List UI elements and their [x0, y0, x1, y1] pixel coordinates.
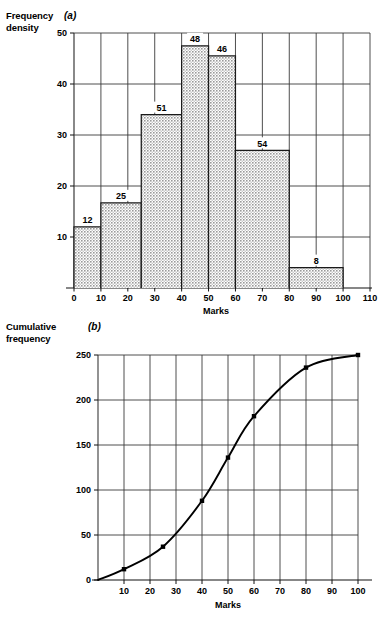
y-tick-label: 50 [57, 28, 67, 38]
x-tick-label: 30 [150, 293, 160, 303]
x-tick-label: 50 [223, 586, 233, 596]
y-tick-label: 150 [76, 440, 91, 450]
x-tick-label: 20 [123, 293, 133, 303]
data-point-marker [252, 414, 256, 418]
panel-a-x-tick-labels: 0102030405060708090100110 [71, 288, 377, 303]
histogram-bar [182, 46, 209, 288]
histogram-bar [289, 268, 343, 288]
x-tick-label: 20 [145, 586, 155, 596]
data-point-marker [200, 499, 204, 503]
x-tick-label: 60 [249, 586, 259, 596]
data-point-marker [304, 365, 308, 369]
histogram-bar-label: 46 [217, 44, 227, 54]
data-point-marker [161, 545, 165, 549]
x-tick-label: 90 [327, 586, 337, 596]
histogram-bar [235, 150, 289, 288]
x-tick-label: 80 [301, 586, 311, 596]
panel-a-histogram-svg: 1225514846548010203040506070809010011010… [0, 0, 385, 320]
data-point-marker [226, 455, 230, 459]
x-tick-label: 50 [204, 293, 214, 303]
panel-a-x-axis-label: Marks [203, 306, 229, 316]
panel-a-bars [74, 46, 343, 288]
histogram-bar [101, 203, 141, 288]
data-point-marker [122, 567, 126, 571]
y-tick-label: 250 [76, 350, 91, 360]
panel-b-x-tick-labels: 102030405060708090100 [119, 580, 366, 596]
y-tick-label: 200 [76, 395, 91, 405]
x-tick-label: 60 [230, 293, 240, 303]
y-tick-label: 20 [57, 181, 67, 191]
panel-a-container: Frequency density (a) 122551484654801020… [0, 0, 385, 320]
histogram-bar [74, 227, 101, 288]
histogram-bar-label: 12 [82, 215, 92, 225]
panel-b-container: Cumulative frequency (b) 102030405060708… [0, 318, 385, 639]
histogram-bar-label: 25 [116, 191, 126, 201]
x-tick-label: 30 [171, 586, 181, 596]
x-tick-label: 40 [197, 586, 207, 596]
histogram-bar [209, 56, 236, 288]
x-tick-label: 100 [350, 586, 365, 596]
x-tick-label: 70 [257, 293, 267, 303]
x-tick-label: 80 [284, 293, 294, 303]
panel-b-cumulative-frequency-svg: 102030405060708090100050100150200250Mark… [0, 318, 385, 639]
y-tick-label: 10 [57, 232, 67, 242]
panel-b-gridlines [92, 355, 372, 580]
histogram-bar-label: 51 [156, 103, 166, 113]
x-tick-label: 110 [363, 293, 378, 303]
x-tick-label: 0 [71, 293, 76, 303]
histogram-bar-label: 8 [314, 256, 319, 266]
y-tick-label: 50 [81, 530, 91, 540]
y-tick-label: 40 [57, 79, 67, 89]
panel-b-data-points [122, 353, 360, 572]
histogram-bar-label: 48 [190, 34, 200, 44]
panel-a-y-tick-labels: 1020304050 [57, 28, 74, 242]
y-tick-label: 100 [76, 485, 91, 495]
histogram-bar [141, 115, 181, 288]
x-tick-label: 10 [119, 586, 129, 596]
x-tick-label: 90 [311, 293, 321, 303]
y-tick-label: 0 [86, 575, 91, 585]
x-tick-label: 70 [275, 586, 285, 596]
x-tick-label: 40 [177, 293, 187, 303]
histogram-bar-label: 54 [257, 139, 267, 149]
panel-b-y-tick-labels: 050100150200250 [76, 350, 98, 585]
x-tick-label: 100 [336, 293, 351, 303]
panel-b-x-axis-label: Marks [215, 600, 241, 610]
x-tick-label: 10 [96, 293, 106, 303]
data-point-marker [356, 353, 360, 357]
y-tick-label: 30 [57, 130, 67, 140]
